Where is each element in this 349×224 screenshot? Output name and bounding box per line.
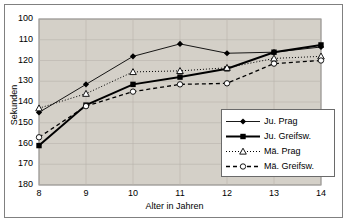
legend-label: Mä. Prag xyxy=(261,146,301,156)
chart-legend: Ju. PragJu. Greifsw.Mä. PragMä. Greifsw. xyxy=(221,109,335,177)
data-point-marker xyxy=(271,61,276,66)
x-axis-tick: 11 xyxy=(168,188,192,198)
x-axis-title: Alter in Jahren xyxy=(5,201,344,211)
legend-item-2: Ju. Greifsw. xyxy=(225,128,330,143)
data-point-marker xyxy=(240,118,246,124)
data-point-marker xyxy=(83,103,88,108)
data-point-marker xyxy=(130,82,135,87)
x-axis-tick: 10 xyxy=(121,188,145,198)
x-axis-tick: 9 xyxy=(74,188,98,198)
data-point-marker xyxy=(224,81,229,86)
data-point-marker xyxy=(240,134,245,139)
legend-key-icon xyxy=(225,144,261,157)
data-point-marker xyxy=(177,82,182,87)
x-axis-tick: 12 xyxy=(215,188,239,198)
data-point-marker xyxy=(240,164,245,169)
data-point-marker xyxy=(130,89,135,94)
y-axis-tick: 120 xyxy=(7,55,33,65)
data-point-marker xyxy=(177,74,182,79)
data-point-marker xyxy=(36,135,41,140)
legend-label: Ju. Prag xyxy=(261,116,298,126)
legend-item-1: Ju. Prag xyxy=(225,113,330,128)
x-axis-tick: 14 xyxy=(309,188,333,198)
legend-key-icon xyxy=(225,129,261,142)
legend-label: Mä. Greifsw. xyxy=(261,161,314,171)
legend-key-icon xyxy=(225,114,261,127)
data-point-marker xyxy=(36,143,41,148)
data-point-marker xyxy=(240,148,247,154)
data-point-marker xyxy=(271,50,276,55)
x-axis-tick: 8 xyxy=(27,188,51,198)
data-point-marker xyxy=(318,58,323,63)
legend-item-3: Mä. Prag xyxy=(225,143,330,158)
y-axis-tick: 170 xyxy=(7,158,33,168)
y-axis-title: Sekunden xyxy=(9,70,19,140)
x-axis-tick: 13 xyxy=(262,188,286,198)
chart-frame: 100110120130140150160170180 891011121314… xyxy=(4,4,343,218)
legend-key-icon xyxy=(225,159,261,172)
y-axis-tick: 110 xyxy=(7,34,33,44)
y-axis-tick: 100 xyxy=(7,13,33,23)
data-point-marker xyxy=(318,42,323,47)
legend-label: Ju. Greifsw. xyxy=(261,131,311,141)
legend-item-4: Mä. Greifsw. xyxy=(225,158,330,173)
